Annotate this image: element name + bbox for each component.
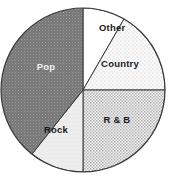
pie-chart-canvas: Other Country R & B Rock Pop	[0, 0, 173, 184]
slice-label-pop: Pop	[37, 61, 56, 72]
slice-label-country: Country	[101, 58, 139, 69]
pie-slice-r-and-b[interactable]	[83, 90, 165, 172]
pie-chart-figure: Other Country R & B Rock Pop	[0, 0, 173, 184]
slice-label-rock: Rock	[44, 124, 69, 135]
slice-label-r-and-b: R & B	[104, 114, 131, 125]
slice-label-other: Other	[99, 22, 125, 33]
